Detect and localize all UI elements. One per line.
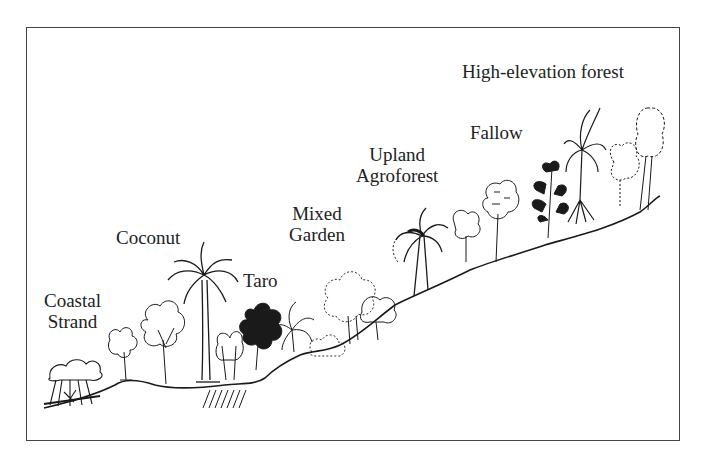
label-line: Strand xyxy=(44,311,101,332)
fallow-tree-icon xyxy=(483,180,519,262)
fallow-palm-icon xyxy=(564,108,606,224)
taro-field-hatch-icon xyxy=(203,390,246,408)
label-line: Coastal xyxy=(44,290,101,311)
label-line: Taro xyxy=(243,270,278,291)
mixed-garden-shrub-icon xyxy=(310,272,375,356)
label-coconut: Coconut xyxy=(116,227,180,248)
label-mixed-garden: Mixed Garden xyxy=(289,203,345,245)
label-line: Fallow xyxy=(470,122,523,143)
label-line: Mixed xyxy=(289,203,345,224)
label-line: Upland xyxy=(356,144,438,165)
mixed-garden-tree-icon xyxy=(348,297,396,344)
taro-leaf-icon xyxy=(216,332,243,380)
agroforest-palm-icon xyxy=(396,208,448,296)
high-forest-tree-icon xyxy=(610,143,639,206)
label-taro: Taro xyxy=(243,270,278,291)
taro-plant-icon xyxy=(240,303,282,370)
label-line: Coconut xyxy=(116,227,180,248)
label-line: Garden xyxy=(289,224,345,245)
mangrove-icon xyxy=(44,360,102,406)
label-upland-agroforest: Upland Agroforest xyxy=(356,144,438,186)
label-coastal-strand: Coastal Strand xyxy=(44,290,101,332)
tall-tree-icon xyxy=(636,108,665,210)
shrub-icon xyxy=(108,301,184,384)
label-line: High-elevation forest xyxy=(462,61,624,82)
label-high-elevation-forest: High-elevation forest xyxy=(462,61,624,82)
fallow-dark-shrub-icon xyxy=(532,161,568,238)
label-line: Agroforest xyxy=(356,165,438,186)
label-fallow: Fallow xyxy=(470,122,523,143)
